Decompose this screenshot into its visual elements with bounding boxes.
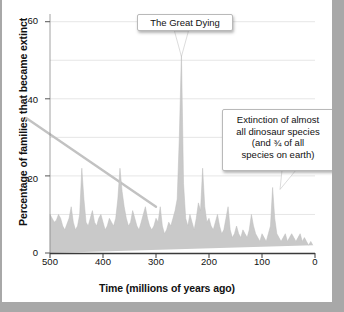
- annotation-dinosaur-line-1: Extinction of almost: [228, 114, 328, 126]
- figure-frame: Percentage of families that became extin…: [0, 0, 344, 312]
- annotation-dinosaur-extinction[interactable]: Extinction of almost all dinosaur specie…: [222, 109, 332, 171]
- trend-line: [26, 118, 156, 207]
- annotation-dinosaur-line-3: (and ¾ of all: [228, 137, 328, 149]
- annotation-great-dying-text: The Great Dying: [150, 17, 220, 28]
- callout-tail-great-dying: [174, 31, 188, 57]
- chart-canvas: Percentage of families that became extin…: [2, 0, 332, 302]
- annotation-dinosaur-line-4: species on earth): [228, 149, 328, 161]
- annotation-dinosaur-line-2: all dinosaur species: [228, 126, 328, 138]
- callout-tail-dinosaur: [280, 170, 296, 189]
- annotation-great-dying[interactable]: The Great Dying: [137, 14, 233, 31]
